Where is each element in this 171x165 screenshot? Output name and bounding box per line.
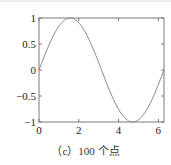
y-tick-label: −1	[24, 116, 36, 128]
x-tick-labels: 0246	[36, 124, 161, 136]
x-tick-label: 4	[116, 124, 122, 136]
y-tick-labels: 10.50−0.5−1	[16, 12, 36, 128]
y-tick-label: −0.5	[16, 90, 36, 102]
y-tick-label: 1	[31, 12, 37, 24]
y-tick-label: 0	[31, 64, 37, 76]
y-tick-label: 0.5	[22, 38, 36, 50]
x-tick-label: 0	[36, 124, 42, 136]
figure-caption: （c）100 个点	[0, 142, 171, 158]
x-tick-label: 2	[76, 124, 82, 136]
x-tick-label: 6	[156, 124, 162, 136]
sine-curve	[39, 18, 164, 122]
sine-chart: 10.50−0.5−1 0246	[0, 0, 171, 140]
